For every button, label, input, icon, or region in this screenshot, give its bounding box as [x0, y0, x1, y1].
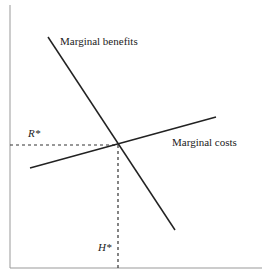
h-star-label: H* [97, 241, 112, 253]
marginal-diagram: Marginal benefits Marginal costs R* H* [0, 0, 270, 277]
marginal-costs-label: Marginal costs [172, 136, 237, 148]
r-star-label: R* [27, 127, 41, 139]
marginal-benefits-label: Marginal benefits [60, 35, 138, 47]
